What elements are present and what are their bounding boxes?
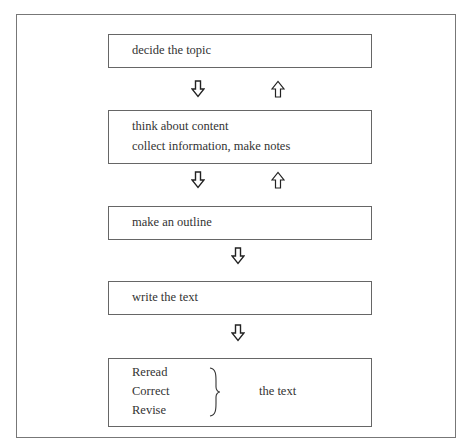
step-text: Reread	[132, 365, 167, 380]
arrow-down-icon	[231, 247, 245, 265]
step-think-collect: think about content collect information,…	[108, 110, 372, 164]
right-brace-icon	[209, 367, 221, 417]
step-text: make an outline	[132, 215, 212, 230]
step-decide-topic: decide the topic	[108, 34, 372, 68]
step-text: decide the topic	[132, 43, 211, 58]
arrow-up-icon	[271, 171, 285, 189]
arrow-down-icon	[191, 80, 205, 98]
step-reread-correct-revise: Reread Correct Revise the text	[108, 358, 372, 427]
arrow-up-icon	[271, 80, 285, 98]
step-make-outline: make an outline	[108, 206, 372, 240]
step-text: write the text	[132, 290, 198, 305]
step-text: Revise	[132, 403, 166, 418]
step-write-text: write the text	[108, 281, 372, 315]
step-text: Correct	[132, 384, 169, 399]
arrow-down-icon	[231, 324, 245, 342]
step-text: collect information, make notes	[132, 139, 290, 154]
brace-label: the text	[259, 384, 296, 399]
arrow-down-icon	[191, 171, 205, 189]
step-text: think about content	[132, 119, 229, 134]
